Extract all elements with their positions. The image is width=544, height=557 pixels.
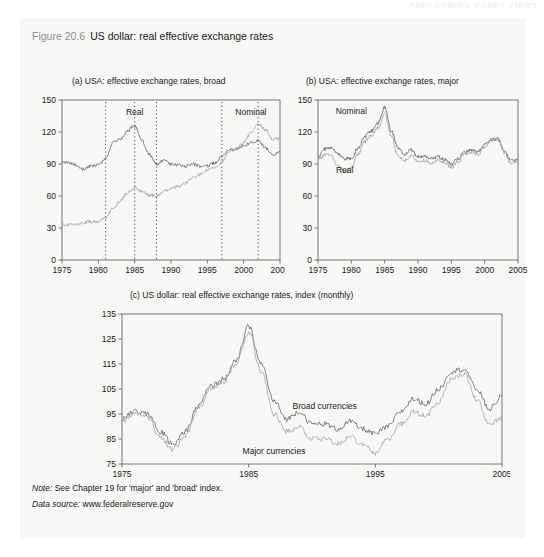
svg-text:1985: 1985	[125, 265, 144, 275]
svg-text:135: 135	[102, 309, 116, 319]
figure-panel: Figure 20.6US dollar: real effective exc…	[20, 18, 525, 538]
svg-text:2005: 2005	[493, 469, 510, 479]
svg-text:1980: 1980	[89, 265, 108, 275]
svg-text:105: 105	[102, 384, 116, 394]
svg-text:2005: 2005	[509, 265, 528, 275]
chart-panel-c: (c) US dollar: real effective exchange r…	[90, 290, 510, 485]
chart-a-plot: 0306090120150197519801985199019952000200…	[30, 92, 285, 282]
figure-number: Figure 20.6	[32, 30, 85, 42]
chart-b-title: (b) USA: effective exchange rates, major	[306, 76, 459, 86]
svg-text:120: 120	[298, 127, 312, 137]
svg-text:60: 60	[47, 191, 57, 201]
svg-text:125: 125	[102, 334, 116, 344]
svg-text:1980: 1980	[342, 265, 361, 275]
svg-text:150: 150	[42, 95, 56, 105]
svg-text:30: 30	[47, 223, 57, 233]
svg-text:2000: 2000	[475, 265, 494, 275]
svg-text:Broad currencies: Broad currencies	[293, 401, 357, 411]
note-text: See Chapter 19 for 'major' and 'broad' i…	[55, 483, 223, 493]
svg-text:90: 90	[47, 159, 57, 169]
svg-text:1975: 1975	[53, 265, 72, 275]
svg-text:0: 0	[51, 255, 56, 265]
svg-text:Nominal: Nominal	[336, 106, 367, 116]
svg-text:95: 95	[107, 409, 117, 419]
svg-text:1990: 1990	[162, 265, 181, 275]
running-head: PERFORMING FOREX FIRMS	[410, 1, 538, 10]
svg-text:1975: 1975	[113, 469, 132, 479]
svg-text:60: 60	[303, 191, 313, 201]
svg-text:120: 120	[42, 127, 56, 137]
svg-text:1995: 1995	[442, 265, 461, 275]
svg-text:30: 30	[303, 223, 313, 233]
svg-text:1975: 1975	[309, 265, 328, 275]
source-label: Data source:	[32, 499, 80, 509]
svg-text:Real: Real	[336, 165, 354, 175]
svg-text:150: 150	[298, 95, 312, 105]
svg-text:Major currencies: Major currencies	[243, 446, 306, 456]
chart-panel-b: (b) USA: effective exchange rates, major…	[288, 76, 528, 281]
svg-text:75: 75	[107, 459, 117, 469]
svg-text:2000: 2000	[234, 265, 253, 275]
svg-text:Real: Real	[126, 107, 144, 117]
chart-panel-a: (a) USA: effective exchange rates, broad…	[30, 76, 285, 281]
svg-text:0: 0	[307, 255, 312, 265]
figure-title-text: US dollar: real effective exchange rates	[90, 30, 273, 42]
svg-text:1995: 1995	[198, 265, 217, 275]
svg-text:90: 90	[303, 159, 313, 169]
figure-note: Note: See Chapter 19 for 'major' and 'br…	[32, 483, 222, 493]
svg-text:85: 85	[107, 434, 117, 444]
svg-text:1995: 1995	[366, 469, 385, 479]
chart-b-plot: 0306090120150197519801985199019952000200…	[288, 92, 528, 282]
svg-text:115: 115	[102, 359, 116, 369]
note-label: Note:	[32, 483, 52, 493]
source-text: www.federalreserve.gov	[83, 499, 174, 509]
chart-c-plot: 7585951051151251351975198519952005Broad …	[90, 306, 510, 486]
figure-source: Data source: www.federalreserve.gov	[32, 499, 173, 509]
svg-text:2005: 2005	[271, 265, 285, 275]
svg-text:1985: 1985	[239, 469, 258, 479]
svg-text:1990: 1990	[409, 265, 428, 275]
chart-c-title: (c) US dollar: real effective exchange r…	[130, 290, 353, 300]
svg-text:1985: 1985	[375, 265, 394, 275]
figure-title: Figure 20.6US dollar: real effective exc…	[32, 30, 273, 42]
svg-text:Nominal: Nominal	[235, 107, 266, 117]
chart-a-title: (a) USA: effective exchange rates, broad	[72, 76, 225, 86]
